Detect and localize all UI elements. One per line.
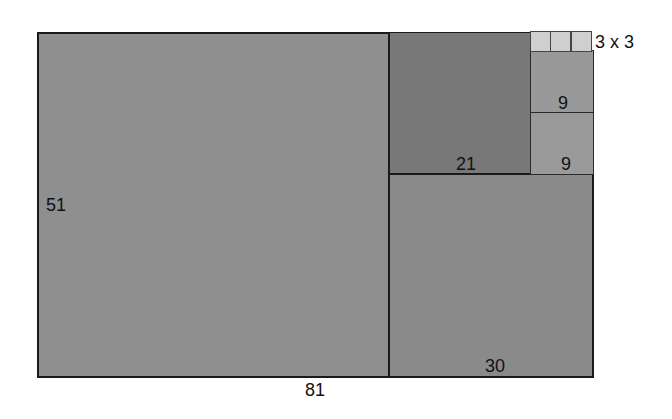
small-squares-label: 3 x 3 — [595, 33, 634, 51]
upper-middle-label: 21 — [456, 155, 476, 173]
small-square-1 — [530, 31, 551, 52]
lower-right-label: 30 — [485, 357, 505, 375]
small-square-2 — [550, 31, 571, 52]
large-height-label: 51 — [46, 196, 66, 214]
nine-bottom-label: 9 — [561, 155, 571, 173]
large-width-label: 81 — [305, 381, 325, 399]
large-region — [37, 32, 390, 378]
lower-right-region — [388, 173, 594, 378]
nine-top-label: 9 — [558, 94, 568, 112]
small-square-3 — [571, 31, 592, 52]
